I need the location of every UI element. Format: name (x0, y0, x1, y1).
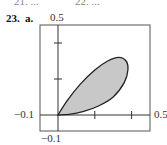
chart-plot (0, 0, 167, 145)
shaded-loop-region (58, 57, 128, 115)
